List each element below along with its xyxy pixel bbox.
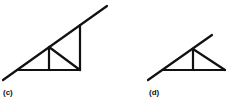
truss-figure-d bbox=[148, 35, 225, 80]
rafter-line bbox=[148, 35, 212, 80]
figure-label-c: (c) bbox=[3, 88, 13, 97]
truss-diagrams bbox=[0, 0, 230, 106]
web-diagonal-line bbox=[49, 47, 80, 70]
truss-figure-c bbox=[3, 6, 107, 80]
figure-label-d: (d) bbox=[149, 88, 159, 97]
web-diagonal-line bbox=[193, 49, 225, 70]
